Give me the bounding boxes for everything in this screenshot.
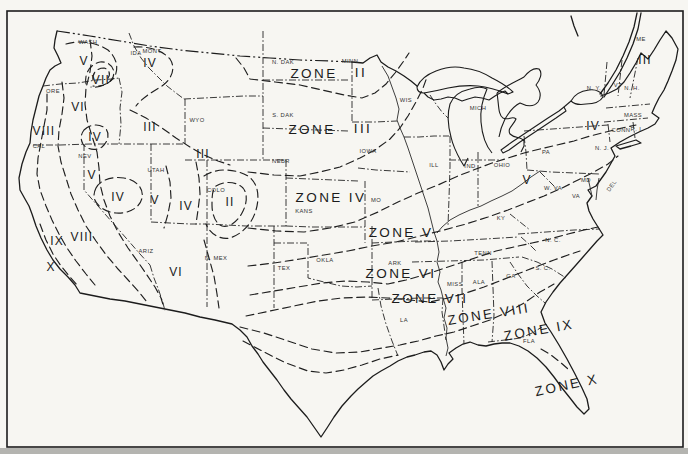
zone-label: ZONE VI [366,266,437,281]
zone-label: ZONE V [369,225,434,240]
state-label: IDA [130,50,141,56]
zone-numeral: VIII [71,230,94,244]
zone-numeral: VI [71,100,85,114]
zone-label: II [355,65,367,80]
zone-numeral: V [150,193,159,207]
state-label: IOWA [359,148,376,154]
state-label: ORE [46,88,60,94]
state-label: COLO [207,187,225,193]
zone-numeral: IV [586,119,600,133]
state-label: TENN [474,250,492,256]
scanned-map-page: ZONEIIZONEIIIZONE IVZONE VZONE VIZONE VI… [0,0,688,454]
state-label: ME [636,36,646,42]
zone-numeral: III [196,147,210,161]
state-label: CONN [612,127,631,133]
state-label: R. I. [631,126,644,132]
state-label: WIS [400,97,412,103]
state-label: N. C. [545,237,560,243]
zone-numeral: II [225,195,234,209]
state-label: MICH [470,105,487,111]
state-label: IND [464,163,475,169]
hardiness-zone-map: ZONEIIZONEIIIZONE IVZONE VZONE VIZONE VI… [0,0,688,454]
state-label: KANS [295,208,313,214]
state-label: MINN [342,58,359,64]
state-label: MO [371,197,381,203]
zone-numeral: IV [179,199,193,213]
state-label: NEBR [272,158,290,164]
zone-numeral: III [143,120,157,134]
state-label: S. DAK [272,112,294,118]
zone-numeral: III [638,53,652,67]
state-label: ALA [473,279,485,285]
state-label: OKLA [316,257,333,263]
state-label: MD [581,177,591,183]
zone-numeral: V [522,173,531,187]
scan-edge-strip [0,448,688,454]
state-label: CAL [33,143,46,149]
state-label: ARK [388,260,401,266]
state-label: S. C. [535,265,550,271]
state-label: W. VA [544,185,562,191]
zone-numeral: IV [88,130,102,144]
zone-label: ZONE IV [296,190,367,205]
zone-numeral: VII [92,73,110,87]
zone-numeral: IV [143,56,157,70]
state-label: VA [572,193,580,199]
state-label: N. DAK [272,59,294,65]
state-label: N. J. [595,145,609,151]
zone-numeral: IX [50,234,64,248]
state-label: UTAH [147,167,164,173]
zone-numeral: V [87,168,96,182]
state-label: NEV [78,153,91,159]
zone-numeral: X [46,260,55,274]
state-label: MASS [624,112,642,118]
zone-numeral: IV [111,190,125,204]
state-label: ILL [429,162,439,168]
zone-label: ZONE VII [392,291,469,306]
state-label: VT [614,82,622,88]
zone-label: ZONE [288,122,335,137]
zone-numeral: VI [169,265,183,279]
zone-numeral: VIII [33,124,56,138]
zone-numeral: V [79,54,88,68]
state-label: N. MEX [205,255,228,261]
zone-label: ZONE [290,66,337,81]
state-label: OHIO [494,162,511,168]
state-label: WASH [79,39,98,45]
state-label: ARIZ [138,248,153,254]
state-label: GA [506,273,515,279]
state-label: N. H. [624,85,639,91]
state-label: FLA [523,338,535,344]
state-label: WYO [189,117,204,123]
state-label: N. Y. [587,85,601,91]
state-label: KY [497,215,506,221]
zone-label: III [354,121,372,136]
state-label: PA [542,149,550,155]
state-label: TEX [278,265,291,271]
state-label: MISS [447,281,463,287]
state-label: MONT [143,48,162,54]
state-label: LA [400,317,408,323]
